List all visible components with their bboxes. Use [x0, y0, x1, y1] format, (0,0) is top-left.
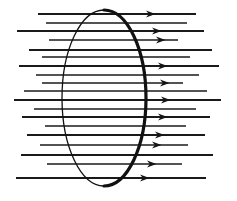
flux-through-surface-diagram [0, 0, 237, 201]
figure-root [0, 0, 237, 201]
